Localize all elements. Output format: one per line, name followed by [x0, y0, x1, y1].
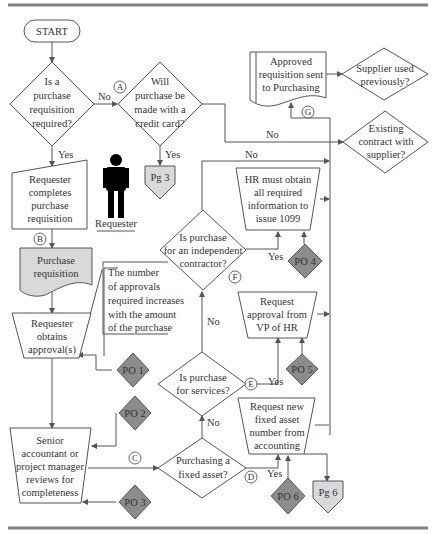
- decision-req-required: Is a purchase requisition required?: [10, 62, 94, 146]
- svg-text:fixed asset: fixed asset: [255, 414, 300, 425]
- svg-text:HR must obtain: HR must obtain: [245, 174, 312, 185]
- svg-text:Will: Will: [151, 76, 169, 87]
- control-po6[interactable]: PO 6: [271, 478, 305, 514]
- process-requester-obtains: Requester obtains approval(s): [12, 313, 91, 358]
- decision-supplier-used: Supplier used previously?: [342, 48, 428, 100]
- document-purchase-requisition: Purchase requisition: [20, 248, 92, 296]
- actor-label: Requester: [95, 218, 137, 229]
- control-po1[interactable]: PO 1: [117, 353, 149, 387]
- svg-text:Request: Request: [260, 296, 294, 307]
- document-approved-sent: Approved requisition sent to Purchasing: [250, 52, 326, 106]
- svg-text:for services?: for services?: [176, 385, 230, 396]
- svg-text:fixed asset?: fixed asset?: [178, 469, 228, 480]
- svg-text:previously?: previously?: [361, 76, 410, 87]
- svg-text:completeness: completeness: [22, 487, 79, 498]
- control-po5[interactable]: PO 5: [286, 354, 318, 385]
- svg-text:Request new: Request new: [250, 401, 304, 412]
- svg-text:A: A: [117, 82, 124, 92]
- edge-label-no-fixed: No: [207, 417, 220, 428]
- decision-credit-card: Will purchase be made with a credit card…: [118, 62, 202, 146]
- annotation-approvals: The number of approvals required increas…: [103, 262, 184, 334]
- svg-text:of approvals: of approvals: [108, 281, 160, 292]
- process-requester-completes: Requester completes purchase requisition: [12, 160, 87, 229]
- person-icon: [103, 154, 129, 218]
- process-senior-review: Senior accountant or project manager rev…: [10, 428, 91, 503]
- svg-text:made with a: made with a: [134, 104, 186, 115]
- svg-text:requisition: requisition: [28, 213, 74, 224]
- edge-po1: [78, 355, 112, 370]
- svg-text:required?: required?: [32, 118, 72, 129]
- svg-text:Senior: Senior: [36, 435, 64, 446]
- marker-g: G: [302, 106, 314, 118]
- svg-text:with the amount: with the amount: [108, 309, 176, 320]
- start-terminator: START: [24, 20, 80, 42]
- svg-text:contractor?: contractor?: [179, 258, 227, 269]
- svg-text:Is purchase: Is purchase: [179, 372, 227, 383]
- svg-text:D: D: [248, 472, 255, 482]
- edge-po2: [92, 413, 116, 446]
- svg-text:project manager: project manager: [16, 461, 84, 472]
- svg-text:The number: The number: [108, 267, 160, 278]
- svg-text:accounting: accounting: [254, 440, 301, 451]
- control-po2[interactable]: PO 2: [119, 396, 151, 430]
- svg-text:F: F: [232, 272, 237, 282]
- svg-text:Is a: Is a: [45, 76, 60, 87]
- svg-text:Pg 3: Pg 3: [151, 172, 170, 183]
- svg-text:PO 3: PO 3: [124, 497, 145, 508]
- svg-text:PO 4: PO 4: [294, 256, 316, 267]
- edge-label-no-services: No: [207, 316, 220, 327]
- svg-text:C: C: [132, 453, 138, 463]
- svg-text:Existing: Existing: [368, 123, 404, 134]
- control-po4[interactable]: PO 4: [288, 244, 322, 278]
- svg-text:Requester: Requester: [31, 318, 73, 329]
- process-vp-hr: Request approval from VP of HR: [238, 292, 317, 338]
- svg-text:PO 6: PO 6: [277, 491, 298, 502]
- svg-text:purchase be: purchase be: [135, 90, 185, 101]
- svg-text:Purchasing a: Purchasing a: [176, 455, 230, 466]
- svg-text:VP of HR: VP of HR: [256, 322, 298, 333]
- svg-text:purchase: purchase: [31, 200, 69, 211]
- edge-label-no-cc: No: [266, 129, 279, 140]
- decision-fixed-asset: Purchasing a fixed asset?: [158, 438, 246, 498]
- svg-text:completes: completes: [29, 187, 72, 198]
- marker-a: A: [114, 81, 126, 93]
- svg-text:requisition: requisition: [34, 268, 80, 279]
- process-fixed-asset-number: Request new fixed asset number from acco…: [238, 398, 315, 454]
- edge-label-yes-fixed: Yes: [267, 468, 282, 479]
- marker-d: D: [245, 471, 257, 483]
- marker-f: F: [229, 271, 241, 283]
- offpage-pg6[interactable]: Pg 6: [313, 481, 343, 513]
- svg-text:for an independent: for an independent: [164, 245, 243, 256]
- svg-text:Supplier used: Supplier used: [356, 63, 414, 74]
- svg-text:Purchase: Purchase: [37, 255, 75, 266]
- svg-text:all required: all required: [254, 187, 303, 198]
- svg-text:credit card?: credit card?: [135, 118, 185, 129]
- edge-label-yes-indep: Yes: [268, 251, 283, 262]
- edge-to-pg6: [304, 454, 327, 481]
- decision-services: Is purchase for services?: [158, 352, 246, 416]
- edge-label-no-a: No: [98, 91, 111, 102]
- svg-text:accountant or: accountant or: [22, 448, 79, 459]
- svg-text:purchase: purchase: [33, 90, 71, 101]
- svg-text:approval(s): approval(s): [28, 344, 76, 356]
- control-po3[interactable]: PO 3: [119, 485, 151, 519]
- svg-text:B: B: [37, 234, 43, 244]
- start-label: START: [36, 26, 68, 37]
- process-hr-1099: HR must obtain all required information …: [236, 168, 320, 230]
- marker-e: E: [245, 378, 257, 390]
- svg-text:to Purchasing: to Purchasing: [262, 82, 320, 93]
- marker-b: B: [34, 233, 46, 245]
- svg-text:PO 1: PO 1: [122, 365, 143, 376]
- svg-text:G: G: [305, 107, 312, 117]
- offpage-pg3[interactable]: Pg 3: [145, 166, 175, 199]
- svg-text:number from: number from: [249, 427, 304, 438]
- purchase-flowchart: START Is a purchase requisition required…: [0, 0, 435, 534]
- edge-indep-yes: [246, 232, 278, 249]
- svg-text:Is purchase: Is purchase: [179, 232, 227, 243]
- svg-text:reviews for: reviews for: [26, 474, 74, 485]
- svg-text:PO 5: PO 5: [291, 364, 312, 375]
- edge-label-yes-req: Yes: [58, 149, 73, 160]
- svg-text:PO 2: PO 2: [124, 408, 145, 419]
- svg-text:Approved: Approved: [270, 56, 313, 67]
- svg-text:information to: information to: [248, 200, 308, 211]
